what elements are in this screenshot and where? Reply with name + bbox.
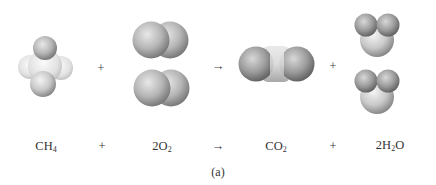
formula-text: CH <box>35 139 52 153</box>
formula-subscript: 4 <box>53 145 57 154</box>
plus-sign: + <box>329 139 336 154</box>
formula-subscript: 2 <box>283 145 287 154</box>
plus-sign: + <box>97 60 104 76</box>
formula-text: CO <box>265 139 282 153</box>
water-molecule-1 <box>355 14 400 58</box>
methane-molecule <box>18 36 73 97</box>
water-molecule-2 <box>355 70 400 115</box>
reaction-figure: + → + CH4 + 2O2 → CO2 + 2H2O (a) <box>0 0 436 185</box>
plus-sign: + <box>98 139 105 154</box>
figure-caption: (a) <box>211 165 224 180</box>
formula-oxygen: 2O2 <box>152 139 171 154</box>
carbon-dioxide-molecule <box>239 46 315 82</box>
formula-water: 2H2O <box>376 138 404 153</box>
oxygen-molecule-1 <box>133 22 189 59</box>
formula-text: H <box>382 138 391 152</box>
formula-text: O <box>159 139 168 153</box>
formula-text: O <box>395 138 404 152</box>
reaction-arrow: → <box>212 58 225 74</box>
plus-sign: + <box>329 58 336 74</box>
reaction-arrow: → <box>212 139 225 154</box>
formula-subscript: 2 <box>168 145 172 154</box>
formula-carbon-dioxide: CO2 <box>265 139 286 154</box>
space-filling-models <box>0 0 436 185</box>
formula-methane: CH4 <box>35 139 56 154</box>
oxygen-molecule-2 <box>134 70 190 107</box>
